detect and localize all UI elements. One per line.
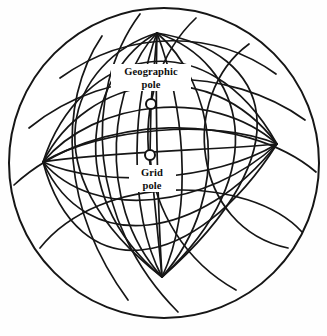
geographic-pole-label-line2: pole (141, 79, 160, 90)
grid-pole-label-line2: pole (142, 180, 161, 191)
globe-diagram-svg: Geographic pole Grid pole (0, 0, 327, 336)
geographic-pole-label-line1: Geographic (124, 66, 178, 77)
grid-pole-label-line1: Grid (141, 167, 163, 178)
grid-pole-marker (145, 150, 155, 160)
pole-connector-line (150, 104, 151, 155)
globe-projection-figure: Geographic pole Grid pole (0, 0, 327, 336)
geographic-pole-marker (146, 99, 156, 109)
